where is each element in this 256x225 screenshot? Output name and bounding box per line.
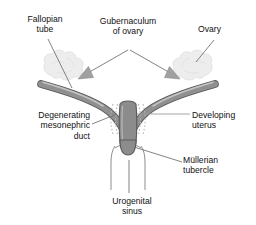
gubernaculum-arrow-left <box>78 50 128 79</box>
label-fallopian-tube: Fallopian tube <box>12 14 78 35</box>
ovary-left <box>44 50 83 80</box>
label-mullerian-tubercle: Müllerian tubercle <box>183 155 253 176</box>
mullerian-tubercle <box>120 140 136 155</box>
label-developing-uterus: Developing uterus <box>192 110 254 131</box>
label-gubernaculum-of-ovary: Gubernaculum of ovary <box>86 16 170 37</box>
leader-mullerian-tubercle <box>134 147 182 162</box>
ovary-right <box>173 50 212 80</box>
anatomical-diagram: Fallopian tube Gubernaculum of ovary Ova… <box>0 0 256 225</box>
label-urogenital-sinus: Urogenital sinus <box>98 196 166 217</box>
label-degenerating-mesonephric-duct: Degenerating mesonephric duct <box>4 110 90 141</box>
label-ovary: Ovary <box>198 24 248 34</box>
